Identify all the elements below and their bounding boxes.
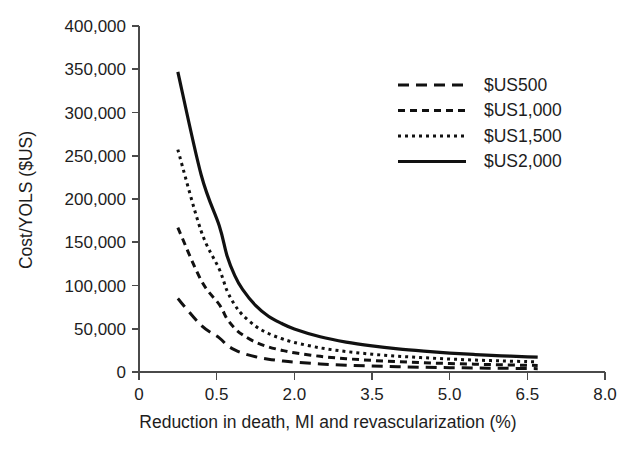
figure-container: 050,000100,000150,000200,000250,000300,0…	[0, 0, 641, 453]
y-tick-label: 350,000	[65, 60, 126, 79]
y-tick-label: 150,000	[65, 233, 126, 252]
legend-label-1: $US1,000	[484, 100, 562, 120]
x-tick-label: 6.5	[516, 385, 540, 404]
y-tick-label: 300,000	[65, 104, 126, 123]
chart-canvas: 050,000100,000150,000200,000250,000300,0…	[0, 0, 641, 453]
y-tick-label: 200,000	[65, 190, 126, 209]
y-axis-tick-labels: 050,000100,000150,000200,000250,000300,0…	[65, 17, 126, 382]
x-tick-label: 2.0	[283, 385, 307, 404]
chart-legend: $US500$US1,000$US1,500$US2,000	[398, 75, 562, 172]
y-tick-label: 50,000	[74, 320, 126, 339]
x-axis-title: Reduction in death, MI and revasculariza…	[139, 412, 516, 432]
x-tick-label: 0	[134, 385, 143, 404]
y-tick-label: 100,000	[65, 277, 126, 296]
x-tick-label: 0.5	[205, 385, 229, 404]
x-tick-label: 8.0	[593, 385, 617, 404]
y-tick-label: 400,000	[65, 17, 126, 36]
series-line-2	[178, 150, 538, 362]
y-tick-label: 0	[117, 363, 126, 382]
x-tick-label: 5.0	[438, 385, 462, 404]
y-tick-label: 250,000	[65, 147, 126, 166]
x-tick-label: 3.5	[360, 385, 384, 404]
legend-label-2: $US1,500	[484, 126, 562, 146]
y-axis-title: Cost/YOLS ($US)	[16, 131, 36, 269]
legend-label-3: $US2,000	[484, 151, 562, 171]
x-axis-tick-labels: 00.52.03.55.06.58.0	[134, 385, 617, 404]
legend-label-0: $US500	[484, 75, 548, 95]
